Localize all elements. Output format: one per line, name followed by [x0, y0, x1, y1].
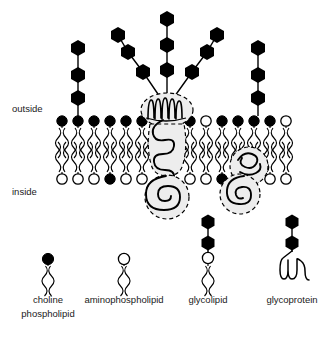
lipid-head-open	[57, 174, 67, 184]
membrane-diagram-canvas: outside inside choline phospholipid amin…	[0, 0, 335, 340]
lipid-head-open	[89, 174, 99, 184]
lipid-head-filled	[73, 116, 83, 126]
lipid-head-filled	[105, 116, 115, 126]
lipid-head-open	[265, 174, 275, 184]
lipid-head-filled	[217, 116, 227, 126]
membrane-diagram-figure: outside inside choline phospholipid amin…	[0, 0, 335, 340]
peripheral-lower-lobe	[220, 174, 260, 214]
lipid-head-open	[137, 174, 147, 184]
lipid-head-filled	[121, 116, 131, 126]
lipid-head-filled	[57, 116, 67, 126]
lipid-head-open	[281, 116, 291, 126]
label-outside: outside	[12, 103, 43, 114]
legend-head-filled-icon	[42, 253, 53, 264]
legend-label-glycolipid: glycolipid	[188, 294, 227, 305]
lipid-head-open	[201, 116, 211, 126]
extracellular-domain	[141, 93, 193, 127]
lipid-head-filled	[249, 116, 259, 126]
lipid-head-filled	[89, 116, 99, 126]
legend-label-aminophospholipid: aminophospholipid	[84, 294, 163, 305]
lipid-head-open	[73, 174, 83, 184]
legend-head-open-icon	[118, 253, 129, 264]
lipid-head-open	[185, 174, 195, 184]
legend-label-choline-line2: phospholipid	[21, 308, 74, 319]
legend-label-choline-line1: choline	[33, 294, 63, 305]
lipid-head-open	[201, 174, 211, 184]
legend-label-glycoprotein: glycoprotein	[266, 294, 317, 305]
lipid-head-open	[281, 174, 291, 184]
lipid-head-filled	[105, 174, 115, 184]
cytoplasmic-domain	[145, 175, 189, 219]
legend-head-open-icon	[202, 252, 213, 263]
label-inside: inside	[12, 186, 37, 197]
lipid-head-filled	[265, 116, 275, 126]
lipid-head-open	[121, 174, 131, 184]
lipid-head-filled	[233, 116, 243, 126]
